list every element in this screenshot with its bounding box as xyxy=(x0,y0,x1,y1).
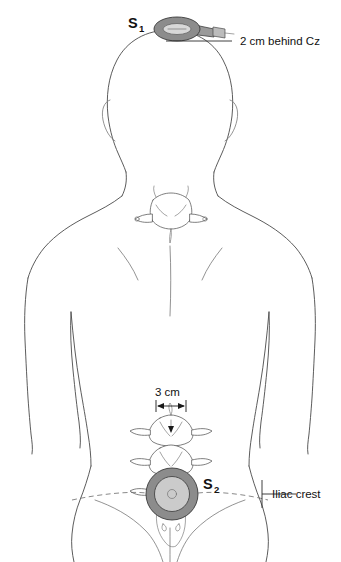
coil-s2-group[interactable] xyxy=(146,468,198,520)
sacrum-foramen-left xyxy=(162,524,166,531)
torso-right-side xyxy=(249,312,269,466)
c7-superior-facet-left xyxy=(154,186,156,197)
scapula-left-hint xyxy=(118,248,138,280)
lumbar-1-transverse-right xyxy=(192,429,212,436)
coil-s1-handle-connector xyxy=(213,27,225,38)
neck-left xyxy=(122,172,126,196)
sacrum-foramen-right xyxy=(176,524,180,531)
site-label-s1: S xyxy=(128,15,138,31)
arm-right-outer xyxy=(308,278,316,454)
dim-arrowhead-left xyxy=(157,403,164,409)
hip-right xyxy=(249,466,268,562)
shoulder-right xyxy=(218,196,312,278)
lumbar-1-spinous xyxy=(169,403,172,415)
site-label-s2: S xyxy=(203,476,213,492)
lumbar-2-transverse-right xyxy=(192,459,212,466)
torso-left-side xyxy=(71,312,91,466)
c7-superior-facet-right xyxy=(186,186,188,197)
site-label-s1-subscript: 1 xyxy=(139,23,145,34)
c7-spinous-process xyxy=(170,229,172,243)
spine-groove-upper xyxy=(170,246,171,316)
c7-body xyxy=(150,193,192,229)
arm-left-outer xyxy=(25,278,33,454)
hip-left xyxy=(72,466,91,562)
coil-s1-cable xyxy=(225,33,234,34)
head-outline-right xyxy=(170,30,233,172)
annotation-cz: 2 cm behind Cz xyxy=(240,35,320,47)
neck-right xyxy=(214,172,218,196)
shoulder-left xyxy=(28,196,122,278)
figure-container: S 1 2 cm behind Cz 3 cm S 2 Iliac crest xyxy=(0,0,341,562)
site-label-s2-subscript: 2 xyxy=(214,484,219,495)
anatomical-diagram: S 1 2 cm behind Cz 3 cm S 2 Iliac crest xyxy=(0,0,341,562)
lumbar-1-transverse-left xyxy=(130,429,150,436)
scapula-right-hint xyxy=(202,248,222,280)
coil-s1-group[interactable] xyxy=(154,17,234,41)
annotation-iliac-crest: Iliac crest xyxy=(272,488,321,500)
coil-s2-inner-aperture xyxy=(155,477,190,512)
head-outline xyxy=(107,30,170,172)
annotation-distance: 3 cm xyxy=(155,386,180,398)
dim-arrowhead-right xyxy=(178,403,185,409)
lumbar-2-transverse-left xyxy=(130,459,150,466)
cervical-vertebra-group xyxy=(135,186,207,243)
